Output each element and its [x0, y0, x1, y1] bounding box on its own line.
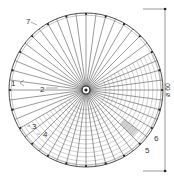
callout-3: 3 [32, 122, 37, 131]
callout-7: 7 [26, 17, 31, 26]
callout-1: 1 [11, 79, 16, 88]
callout-4: 4 [43, 130, 48, 139]
callout-2: 2 [40, 85, 45, 94]
umbrella-structure-diagram: ø 60 7 1 2 3 4 6 5 [0, 0, 174, 180]
center-hub [82, 86, 90, 94]
diameter-label: ø 60 [164, 83, 171, 97]
callout-5: 5 [145, 146, 150, 155]
callout-6: 6 [154, 134, 159, 143]
